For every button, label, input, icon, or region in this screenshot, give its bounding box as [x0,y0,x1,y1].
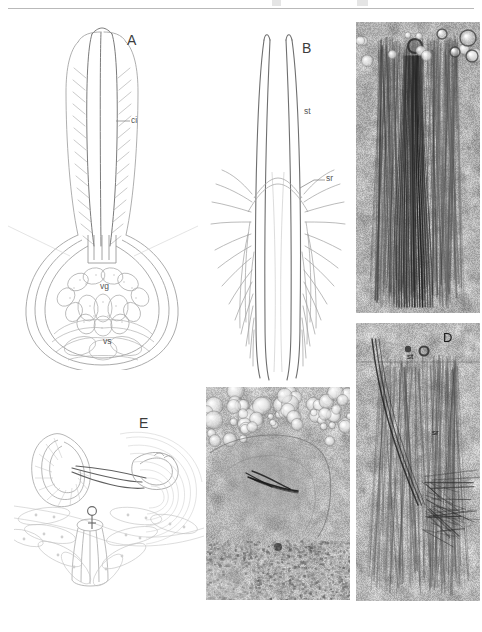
header-rule [8,8,474,9]
panel-b-leader-sr [300,176,326,192]
female-gonopore-icon [84,505,100,531]
panel-a-leader-ci [116,118,132,124]
panel-f-micrograph [206,387,350,600]
panel-b-drawing [206,22,356,392]
panel-d-micrograph [356,323,480,601]
header-ghost-mark-right [357,0,368,6]
panel-c-micrograph [356,22,480,313]
panel-e-drawing [14,398,204,598]
figure-plate: A ci vg vs [0,0,482,632]
header-ghost-mark-left [272,0,281,6]
panel-a-drawing [8,20,198,370]
